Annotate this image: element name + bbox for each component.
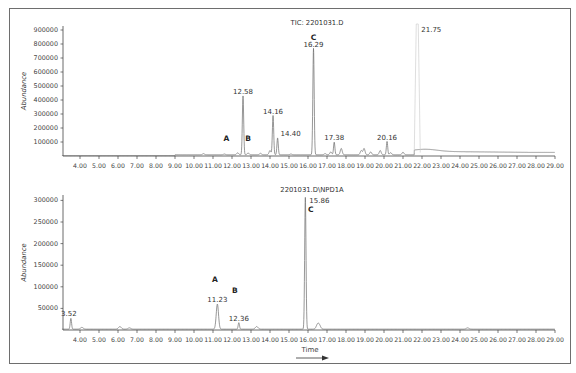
x-tick-label: 10.00 <box>185 162 203 169</box>
x-tick-label: 5.00 <box>92 336 106 343</box>
x-tick-label: 16.00 <box>299 336 317 343</box>
peak-label: 12.58 <box>233 88 253 96</box>
y-tick-label: 400000 <box>34 96 58 104</box>
x-tick-label: 23.00 <box>432 336 450 343</box>
y-tick-label: 700000 <box>34 54 58 62</box>
npd-chart: 500001000001500002000002500003000004.005… <box>20 186 564 361</box>
y-tick-label: 200000 <box>34 240 58 248</box>
y-tick-label: 300000 <box>34 110 58 118</box>
compound-letter: B <box>232 286 238 295</box>
y-axis-title: Abundance <box>20 72 28 111</box>
saturated-peak <box>414 24 420 153</box>
x-tick-label: 8.00 <box>149 336 163 343</box>
x-tick-label: 20.00 <box>375 162 393 169</box>
x-tick-label: 26.00 <box>489 162 507 169</box>
x-tick-label: 24.00 <box>451 336 469 343</box>
arrowhead-icon <box>322 356 329 361</box>
peak-label: 3.52 <box>61 310 77 318</box>
x-tick-label: 4.00 <box>73 336 87 343</box>
x-tick-label: 9.00 <box>168 162 182 169</box>
x-tick-label: 15.00 <box>280 336 298 343</box>
y-tick-label: 300000 <box>34 196 58 204</box>
peak-label: 17.38 <box>324 134 344 142</box>
x-tick-label: 12.00 <box>223 336 241 343</box>
trace-line <box>62 48 555 155</box>
compound-letter: A <box>212 275 218 284</box>
x-tick-label: 22.00 <box>413 336 431 343</box>
tic-chart: 1000002000003000004000005000006000007000… <box>20 19 564 169</box>
y-tick-label: 900000 <box>34 26 58 34</box>
compound-letter: C <box>308 205 314 214</box>
x-tick-label: 28.00 <box>527 336 545 343</box>
y-tick-label: 800000 <box>34 40 58 48</box>
x-tick-label: 19.00 <box>356 336 374 343</box>
peak-label: 14.40 <box>281 130 301 138</box>
x-tick-label: 24.00 <box>451 162 469 169</box>
x-tick-label: 11.00 <box>204 336 222 343</box>
x-tick-label: 29.00 <box>546 162 564 169</box>
x-tick-label: 14.00 <box>261 162 279 169</box>
y-tick-label: 500000 <box>34 82 58 90</box>
x-tick-label: 19.00 <box>356 162 374 169</box>
x-tick-label: 17.00 <box>318 336 336 343</box>
x-axis-title: Time <box>300 346 318 354</box>
x-tick-label: 17.00 <box>318 162 336 169</box>
x-tick-label: 7.00 <box>130 162 144 169</box>
x-tick-label: 23.00 <box>432 162 450 169</box>
y-tick-label: 100000 <box>34 138 58 146</box>
peak-label: 15.86 <box>309 197 330 205</box>
peak-label: 20.16 <box>377 134 398 142</box>
y-tick-label: 250000 <box>34 218 58 226</box>
x-tick-label: 20.00 <box>375 336 393 343</box>
chart-title: 2201031.D\NPD1A <box>280 186 344 194</box>
x-tick-label: 28.00 <box>527 162 545 169</box>
x-tick-label: 5.00 <box>92 162 106 169</box>
peak-label: 12.36 <box>229 315 250 323</box>
x-tick-label: 27.00 <box>508 162 526 169</box>
chromatogram-figure: 1000002000003000004000005000006000007000… <box>0 0 576 373</box>
y-axis-title: Abundance <box>20 243 28 282</box>
x-tick-label: 14.00 <box>261 336 279 343</box>
x-tick-label: 8.00 <box>149 162 163 169</box>
x-tick-label: 4.00 <box>73 162 87 169</box>
x-tick-label: 27.00 <box>508 336 526 343</box>
y-tick-label: 200000 <box>34 124 58 132</box>
x-tick-label: 9.00 <box>168 336 182 343</box>
x-tick-label: 25.00 <box>470 162 488 169</box>
x-tick-label: 7.00 <box>130 336 144 343</box>
chart-title: TIC: 2201031.D <box>289 19 343 27</box>
x-tick-label: 16.00 <box>299 162 317 169</box>
compound-letter: B <box>245 134 251 143</box>
x-tick-label: 10.00 <box>185 336 203 343</box>
x-tick-label: 29.00 <box>546 336 564 343</box>
x-tick-label: 26.00 <box>489 336 507 343</box>
y-tick-label: 150000 <box>34 261 58 269</box>
compound-letter: A <box>223 134 229 143</box>
x-tick-label: 18.00 <box>337 336 355 343</box>
x-tick-label: 21.00 <box>394 162 412 169</box>
x-tick-label: 12.00 <box>223 162 241 169</box>
x-tick-label: 22.00 <box>413 162 431 169</box>
y-tick-label: 100000 <box>34 283 58 291</box>
peak-label: 11.23 <box>207 296 227 304</box>
x-tick-label: 18.00 <box>337 162 355 169</box>
x-tick-label: 13.00 <box>242 162 260 169</box>
compound-letter: C <box>311 33 317 42</box>
trace-line <box>62 197 555 329</box>
y-tick-label: 600000 <box>34 68 58 76</box>
y-tick-label: 50000 <box>38 304 58 312</box>
x-tick-label: 25.00 <box>470 336 488 343</box>
x-tick-label: 6.00 <box>111 162 125 169</box>
peak-label: 21.75 <box>421 26 441 34</box>
x-tick-label: 6.00 <box>111 336 125 343</box>
x-tick-label: 11.00 <box>204 162 222 169</box>
x-tick-label: 13.00 <box>242 336 260 343</box>
x-tick-label: 21.00 <box>394 336 412 343</box>
peak-label: 14.16 <box>263 108 284 116</box>
x-tick-label: 15.00 <box>280 162 298 169</box>
